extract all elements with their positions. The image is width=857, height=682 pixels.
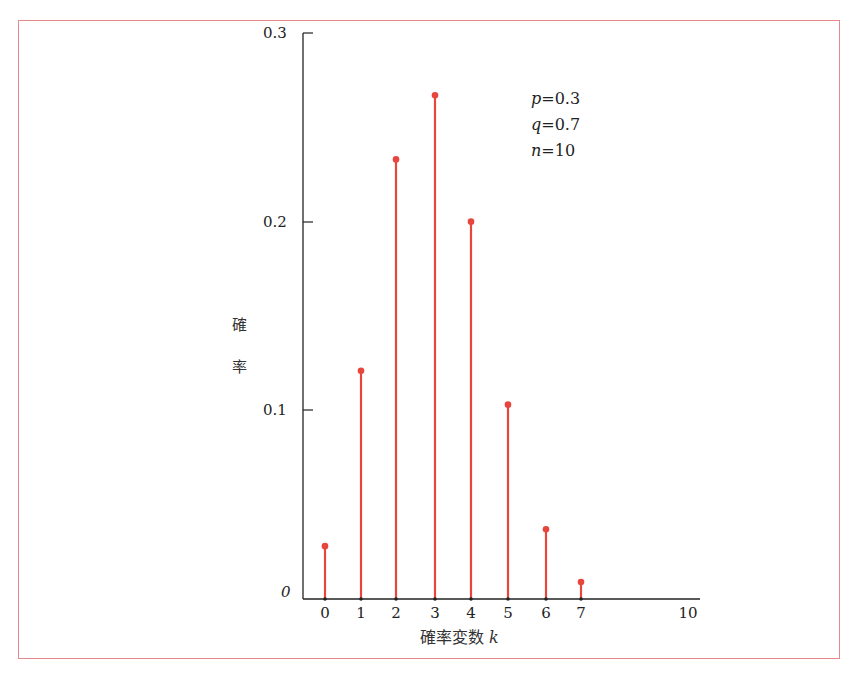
annotation-p: p=0.3 [531, 89, 580, 108]
stem-base [469, 597, 473, 601]
stem-marker [468, 218, 475, 225]
annotation-n-var: n [531, 141, 541, 160]
stem-base [433, 597, 437, 601]
y-tick-label: 0.3 [263, 24, 287, 42]
x-axis-label-var: k [489, 628, 499, 647]
stems-group [322, 92, 585, 601]
x-tick-label: 1 [356, 604, 366, 622]
stem-marker [322, 543, 329, 550]
x-tick-label: 7 [576, 604, 586, 622]
y-tick-label: 0.2 [263, 213, 287, 231]
x-axis-label-text: 確率変数 [420, 628, 489, 647]
stem-marker [358, 367, 365, 374]
y-tick-label: 0.1 [263, 401, 287, 419]
stem-base [394, 597, 398, 601]
annotation-q-value: =0.7 [541, 115, 580, 134]
stem-base [579, 597, 583, 601]
stem-base [506, 597, 510, 601]
stem-marker [393, 156, 400, 163]
y-axis-label-char: 率 [232, 358, 247, 376]
stem-marker [543, 526, 550, 533]
annotation-p-var: p [531, 89, 541, 108]
x-tick-label: 2 [391, 604, 401, 622]
x-tick-label: 3 [430, 604, 440, 622]
stem-base [323, 597, 327, 601]
stem-marker [432, 92, 439, 99]
y-axis-label-char: 確 [232, 316, 247, 334]
stem-base [359, 597, 363, 601]
x-tick-label: 6 [541, 604, 551, 622]
annotation-q: q=0.7 [531, 115, 580, 134]
stem-marker [578, 579, 585, 586]
annotation-n: n=10 [531, 141, 575, 160]
x-tick-label: 0 [320, 604, 330, 622]
x-tick-label: 4 [466, 604, 476, 622]
x-tick-label: 5 [503, 604, 513, 622]
annotation-p-value: =0.3 [541, 89, 580, 108]
x-tick-label: 10 [678, 604, 697, 622]
stem-marker [505, 401, 512, 408]
y-tick-label: 0 [281, 583, 291, 601]
stem-base [544, 597, 548, 601]
x-tick-labels: 0123456710 [320, 604, 697, 622]
x-axis-label: 確率変数 k [420, 628, 499, 647]
annotation-n-value: =10 [541, 141, 575, 160]
annotation-q-var: q [531, 115, 541, 134]
stem-chart: 0.3 0.2 0.1 0 確 率 0123456710 確率変数 k p=0.… [0, 0, 857, 682]
